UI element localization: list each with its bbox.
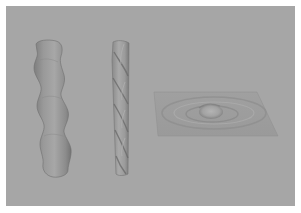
ripple-plane bbox=[154, 92, 278, 136]
rendered-scene bbox=[0, 0, 301, 213]
wavy-tube bbox=[34, 40, 71, 177]
twisted-rod bbox=[112, 41, 129, 176]
